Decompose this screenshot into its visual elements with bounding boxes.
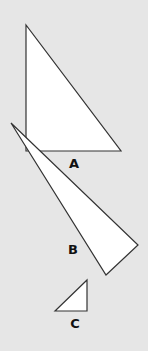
label-b: B	[68, 242, 78, 257]
label-c: C	[70, 316, 80, 331]
label-a: A	[69, 156, 79, 171]
triangle-a	[26, 25, 121, 151]
triangles-diagram: A B C	[0, 0, 148, 351]
triangle-c	[55, 280, 87, 311]
